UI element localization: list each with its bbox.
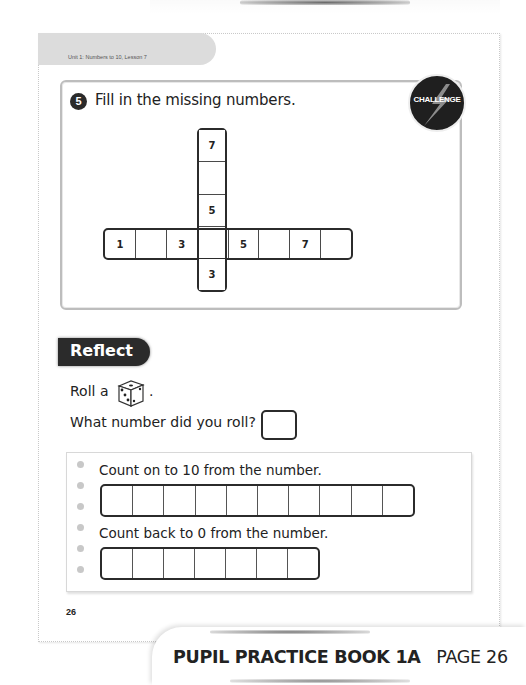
ring-hole-icon — [77, 461, 84, 468]
roll-instruction: Roll a — [70, 383, 108, 399]
number-cell[interactable]: 5 — [199, 195, 225, 227]
count-back-cell[interactable] — [288, 549, 318, 578]
ring-hole-icon — [77, 524, 84, 531]
number-cell-blank[interactable] — [321, 230, 351, 258]
count-back-cell[interactable] — [133, 549, 164, 578]
roll-question: What number did you roll? — [70, 414, 256, 430]
horizontal-number-row: 1 3 5 7 — [103, 228, 353, 260]
count-on-cell[interactable] — [196, 486, 227, 515]
number-cell[interactable]: 7 — [290, 230, 321, 258]
count-on-cell[interactable] — [133, 486, 164, 515]
rolled-number-input[interactable] — [261, 410, 297, 440]
ring-hole-icon — [77, 566, 84, 573]
roll-period: . — [149, 383, 153, 399]
count-back-cell[interactable] — [257, 549, 288, 578]
number-cell[interactable]: 3 — [167, 230, 198, 258]
footer-shadow — [230, 679, 410, 683]
count-on-cell[interactable] — [164, 486, 195, 515]
count-on-cell[interactable] — [258, 486, 289, 515]
page-number: 26 — [66, 607, 76, 617]
question-instruction: Fill in the missing numbers. — [95, 91, 296, 109]
count-on-cell[interactable] — [289, 486, 320, 515]
number-cell[interactable]: 7 — [199, 130, 225, 162]
count-on-label: Count on to 10 from the number. — [99, 462, 322, 478]
count-back-cell[interactable] — [226, 549, 257, 578]
number-cell[interactable]: 3 — [199, 259, 225, 290]
challenge-badge-label: CHALLENGE — [410, 95, 464, 104]
count-on-row — [100, 484, 415, 517]
page-label: PAGE 26 — [436, 647, 507, 667]
count-on-cell[interactable] — [227, 486, 258, 515]
reflect-title: Reflect — [70, 341, 133, 360]
count-on-cell[interactable] — [383, 486, 413, 515]
count-back-cell[interactable] — [164, 549, 195, 578]
count-back-cell[interactable] — [102, 549, 133, 578]
count-back-cell[interactable] — [195, 549, 226, 578]
number-cell-blank[interactable] — [199, 162, 225, 194]
vertical-number-column: 7 5 3 — [197, 128, 227, 292]
footer-caption: PUPIL PRACTICE BOOK 1A PAGE 26 — [173, 647, 508, 667]
count-on-cell[interactable] — [352, 486, 383, 515]
unit-label: Unit 1: Numbers to 10, Lesson 7 — [68, 54, 147, 60]
count-on-cell[interactable] — [320, 486, 351, 515]
ring-hole-icon — [77, 545, 84, 552]
number-cell-intersection — [199, 227, 225, 258]
number-cell-blank[interactable] — [259, 230, 290, 258]
dice-icon — [115, 378, 147, 408]
number-cell[interactable]: 1 — [105, 230, 136, 258]
count-on-cell[interactable] — [102, 486, 133, 515]
unit-tab — [38, 33, 216, 65]
number-cell-blank[interactable] — [136, 230, 167, 258]
ring-hole-icon — [77, 503, 84, 510]
challenge-badge: CHALLENGE — [408, 74, 466, 132]
top-page-shadow — [150, 0, 500, 14]
footer-shadow — [210, 630, 370, 634]
number-cell[interactable]: 5 — [229, 230, 260, 258]
count-back-row — [100, 547, 320, 580]
question-number-badge: 5 — [70, 93, 87, 110]
challenge-question-box — [60, 80, 462, 310]
count-back-label: Count back to 0 from the number. — [99, 525, 328, 541]
ring-hole-icon — [77, 482, 84, 489]
book-title: PUPIL PRACTICE BOOK 1A — [173, 647, 421, 667]
